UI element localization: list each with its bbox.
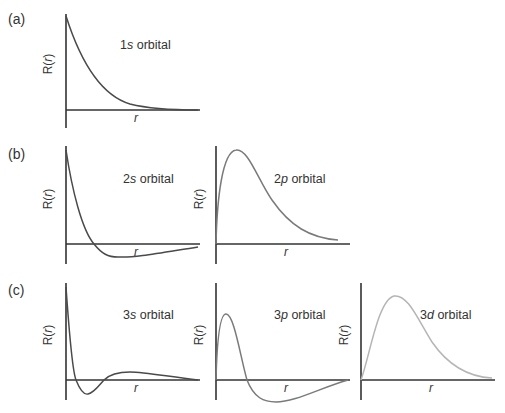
- curve-3p: [216, 314, 348, 402]
- y-axis-label-3d: R(r): [337, 325, 351, 346]
- curve-1s: [66, 16, 198, 110]
- x-axis-label-3p: r: [284, 381, 288, 395]
- curve-2s: [66, 150, 198, 257]
- orbital-label-2p: 2p orbital: [274, 172, 325, 186]
- x-axis-label-3s: r: [134, 381, 138, 395]
- y-axis-label-2s: R(r): [41, 189, 55, 210]
- y-axis-label-3s: R(r): [41, 325, 55, 346]
- x-axis-label-2p: r: [284, 245, 288, 259]
- x-axis-label-3d: r: [429, 381, 433, 395]
- plot-2s: [66, 146, 200, 264]
- curve-2p: [216, 150, 338, 244]
- x-axis-label-1s: r: [134, 111, 138, 125]
- y-axis-label-1s: R(r): [41, 54, 55, 75]
- plot-3d: [361, 283, 495, 400]
- plot-3s: [66, 283, 200, 400]
- curve-3s: [66, 287, 198, 394]
- orbital-label-3p: 3p orbital: [274, 308, 325, 322]
- plot-1s: [66, 14, 200, 128]
- orbital-label-1s: 1s orbital: [120, 38, 171, 52]
- orbital-plots: [0, 0, 505, 413]
- plot-2p: [216, 146, 350, 264]
- orbital-label-3d: 3d orbital: [420, 308, 471, 322]
- plot-3p: [216, 283, 350, 402]
- orbital-label-2s: 2s orbital: [123, 172, 174, 186]
- y-axis-label-3p: R(r): [192, 325, 206, 346]
- orbital-label-3s: 3s orbital: [123, 308, 174, 322]
- x-axis-label-2s: r: [134, 245, 138, 259]
- y-axis-label-2p: R(r): [192, 189, 206, 210]
